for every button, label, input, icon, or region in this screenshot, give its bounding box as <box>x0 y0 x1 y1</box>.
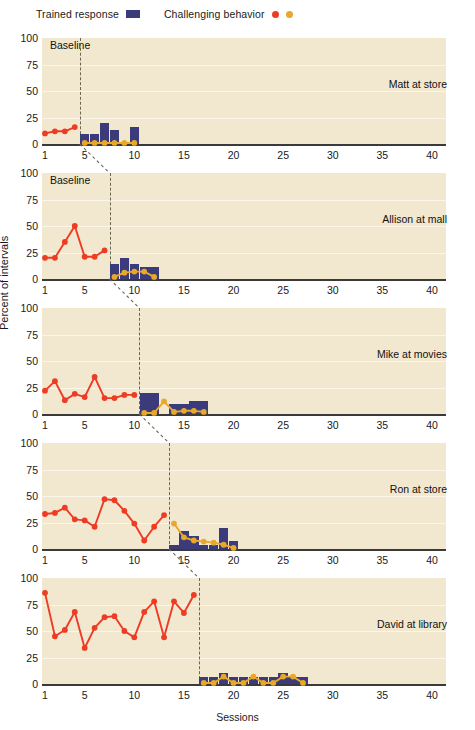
challenging-behavior-baseline-point <box>82 645 88 651</box>
x-axis-title: Sessions <box>0 711 475 723</box>
challenging-behavior-baseline-point <box>112 497 118 503</box>
x-tick-label: 5 <box>82 689 88 701</box>
challenging-behavior-intervention-point <box>260 680 266 686</box>
x-tick-label: 20 <box>228 149 240 161</box>
challenging-behavior-baseline-point <box>42 511 48 517</box>
challenging-behavior-baseline-point <box>82 254 88 260</box>
challenging-behavior-baseline-point <box>102 247 108 253</box>
x-axis-ticks: 1510152025303540 <box>0 149 475 163</box>
challenging-behavior-baseline-point <box>102 614 108 620</box>
challenging-behavior-baseline-point <box>72 391 78 397</box>
legend-label-trained-response: Trained response <box>36 8 119 20</box>
challenging-behavior-intervention-point <box>280 674 286 680</box>
challenging-behavior-baseline-point <box>92 524 98 530</box>
x-tick-label: 5 <box>82 284 88 296</box>
x-tick-label: 15 <box>178 149 190 161</box>
challenging-behavior-baseline-point <box>92 625 98 631</box>
challenging-behavior-baseline-point <box>102 395 108 401</box>
challenging-behavior-baseline-point <box>62 505 68 511</box>
chart-legend: Trained response Challenging behavior <box>36 8 293 20</box>
challenging-behavior-intervention-point <box>270 680 276 686</box>
x-tick-label: 5 <box>82 419 88 431</box>
x-tick-label: 35 <box>377 284 389 296</box>
x-tick-label: 20 <box>228 689 240 701</box>
challenging-behavior-baseline-point <box>131 392 137 398</box>
challenging-behavior-baseline-point <box>52 255 58 261</box>
challenging-behavior-baseline-point <box>121 508 127 514</box>
challenging-behavior-baseline-point <box>62 627 68 633</box>
challenging-behavior-intervention-point <box>181 408 187 414</box>
challenging-behavior-baseline-point <box>42 255 48 261</box>
x-tick-label: 15 <box>178 284 190 296</box>
challenging-behavior-intervention-point <box>112 274 118 280</box>
challenging-behavior-intervention-point <box>241 680 247 686</box>
challenging-behavior-intervention-point <box>171 409 177 415</box>
x-tick-label: 40 <box>426 419 438 431</box>
challenging-behavior-baseline-point <box>72 124 78 130</box>
x-tick-label: 40 <box>426 554 438 566</box>
challenging-behavior-intervention-point <box>141 269 147 275</box>
panel-mike-at-movies: 10075502501510152025303540Mike at movies <box>0 308 475 454</box>
challenging-behavior-baseline-point <box>52 510 58 516</box>
challenging-behavior-baseline-point <box>72 516 78 522</box>
data-series-layer <box>0 308 475 416</box>
challenging-behavior-intervention-point <box>151 274 157 280</box>
challenging-behavior-baseline-point <box>161 634 167 640</box>
x-tick-label: 30 <box>327 689 339 701</box>
x-tick-label: 40 <box>426 284 438 296</box>
challenging-behavior-intervention-point <box>131 269 137 275</box>
challenging-behavior-baseline-point <box>52 633 58 639</box>
x-tick-label: 25 <box>277 284 289 296</box>
challenging-behavior-baseline-point <box>52 128 58 134</box>
x-axis-ticks: 1510152025303540 <box>0 284 475 298</box>
challenging-behavior-baseline-point <box>112 395 118 401</box>
x-tick-label: 25 <box>277 419 289 431</box>
challenging-behavior-intervention-point <box>201 409 207 415</box>
challenging-behavior-baseline-point <box>42 388 48 394</box>
x-tick-label: 15 <box>178 554 190 566</box>
challenging-behavior-baseline-point <box>151 598 157 604</box>
challenging-behavior-intervention-point <box>231 545 237 551</box>
challenging-behavior-intervention-point <box>201 680 207 686</box>
x-tick-label: 40 <box>426 689 438 701</box>
challenging-behavior-baseline-point <box>131 634 137 640</box>
challenging-behavior-baseline-line <box>45 499 164 540</box>
challenging-behavior-baseline-point <box>151 524 157 530</box>
x-tick-label: 35 <box>377 554 389 566</box>
x-tick-label: 1 <box>42 689 48 701</box>
x-tick-label: 15 <box>178 419 190 431</box>
x-tick-label: 30 <box>327 149 339 161</box>
x-tick-label: 1 <box>42 149 48 161</box>
multiple-baseline-figure: Trained response Challenging behavior Pe… <box>0 0 475 730</box>
challenging-behavior-baseline-point <box>121 392 127 398</box>
challenging-behavior-intervention-point <box>141 410 147 416</box>
x-tick-label: 20 <box>228 554 240 566</box>
challenging-behavior-baseline-point <box>102 496 108 502</box>
x-tick-label: 20 <box>228 284 240 296</box>
challenging-behavior-intervention-point <box>191 408 197 414</box>
challenging-behavior-intervention-point <box>92 140 98 146</box>
challenging-behavior-intervention-point <box>211 680 217 686</box>
challenging-behavior-baseline-point <box>112 613 118 619</box>
challenging-behavior-intervention-point <box>171 521 177 527</box>
challenging-behavior-baseline-point <box>72 223 78 229</box>
x-tick-label: 25 <box>277 554 289 566</box>
challenging-behavior-baseline-point <box>42 590 48 596</box>
x-axis-ticks: 1510152025303540 <box>0 689 475 703</box>
challenging-behavior-baseline-point <box>171 598 177 604</box>
challenging-behavior-baseline-point <box>92 374 98 380</box>
challenging-behavior-baseline-point <box>92 254 98 260</box>
x-tick-label: 10 <box>128 419 140 431</box>
x-axis-ticks: 1510152025303540 <box>0 419 475 433</box>
challenging-behavior-baseline-point <box>52 378 58 384</box>
data-series-layer <box>0 443 475 551</box>
x-tick-label: 5 <box>82 554 88 566</box>
challenging-behavior-intervention-point <box>181 534 187 540</box>
x-tick-label: 5 <box>82 149 88 161</box>
legend-swatch-trained-response <box>126 10 140 18</box>
challenging-behavior-baseline-point <box>82 394 88 400</box>
challenging-behavior-intervention-point <box>300 680 306 686</box>
x-tick-label: 10 <box>128 284 140 296</box>
challenging-behavior-intervention-point <box>161 398 167 404</box>
challenging-behavior-intervention-point <box>121 140 127 146</box>
